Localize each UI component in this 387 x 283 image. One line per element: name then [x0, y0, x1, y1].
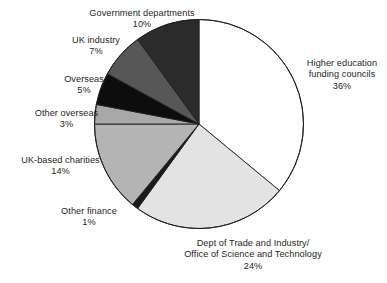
- pie-chart: Government departments 10% UK industry 7…: [0, 0, 387, 283]
- slice-label-name: Other overseas: [10, 108, 123, 119]
- slice-label-name: UK industry: [42, 35, 150, 46]
- slice-label-uk-industry: UK industry 7%: [42, 35, 150, 58]
- slice-label-overseas: Overseas 5%: [34, 74, 134, 97]
- slice-label-name-line1: Higher education: [296, 58, 387, 69]
- slice-label-higher-education: Higher education funding councils 36%: [296, 58, 387, 92]
- slice-label-name-line2: Office of Science and Technology: [150, 249, 356, 260]
- slice-label-name-line1: Dept of Trade and Industry/: [150, 238, 356, 249]
- slice-label-percent: 24%: [150, 261, 356, 272]
- slice-label-name: Government departments: [68, 8, 216, 19]
- slice-label-percent: 5%: [34, 85, 134, 96]
- slice-label-percent: 14%: [4, 166, 117, 177]
- slice-label-percent: 3%: [10, 119, 123, 130]
- slice-label-percent: 36%: [296, 81, 387, 92]
- slice-label-name: Other finance: [36, 206, 142, 217]
- slice-label-other-overseas: Other overseas 3%: [10, 108, 123, 131]
- slice-label-name: Overseas: [34, 74, 134, 85]
- slice-label-name: UK-based charities: [4, 155, 117, 166]
- slice-label-percent: 7%: [42, 46, 150, 57]
- slice-label-uk-based-charities: UK-based charities 14%: [4, 155, 117, 178]
- slice-label-name-line2: funding councils: [296, 69, 387, 80]
- slice-label-percent: 1%: [36, 217, 142, 228]
- slice-label-government-departments: Government departments 10%: [68, 8, 216, 31]
- slice-label-dti-ost: Dept of Trade and Industry/ Office of Sc…: [150, 238, 356, 272]
- slice-label-percent: 10%: [68, 19, 216, 30]
- slice-label-other-finance: Other finance 1%: [36, 206, 142, 229]
